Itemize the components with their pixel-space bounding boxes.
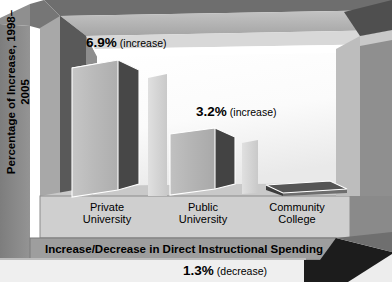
value-note-community: (decrease): [217, 265, 267, 277]
ghost-bar-public: [242, 140, 258, 194]
value-callout-public: 3.2% (increase): [196, 105, 277, 119]
frame-right-face: [360, 30, 392, 196]
bar-public-side: [215, 128, 235, 189]
value-label-community: 1.3%: [183, 263, 214, 278]
bottom-strip-divider: [0, 258, 306, 260]
ghost-bar-private: [148, 74, 167, 196]
value-callout-private: 6.9% (increase): [86, 36, 167, 50]
value-label-private: 6.9%: [86, 35, 117, 50]
bar-public-front: [170, 128, 215, 195]
category-label-private-line2: University: [62, 214, 152, 226]
category-label-community-line1: Community: [269, 201, 325, 213]
category-label-public: Public University: [158, 202, 248, 225]
x-axis-title: Increase/Decrease in Direct Instructiona…: [36, 243, 332, 255]
category-label-public-line1: Public: [188, 201, 218, 213]
y-axis-title: Percentage of Increase, 1998–2005: [5, 5, 32, 180]
category-label-community: Community College: [247, 202, 347, 225]
chart-figure: Percentage of Increase, 1998–2005 6.9% (…: [0, 0, 392, 282]
bar-private-side: [118, 60, 139, 190]
bar-private-front: [72, 60, 118, 197]
value-label-public: 3.2%: [196, 104, 227, 119]
frame-right-inner: [336, 36, 360, 196]
value-callout-community: 1.3% (decrease): [183, 264, 267, 278]
chart-graphics: [0, 0, 392, 282]
category-label-community-line2: College: [247, 214, 347, 226]
category-label-public-line2: University: [158, 214, 248, 226]
category-label-private: Private University: [62, 202, 152, 225]
value-note-public: (increase): [230, 106, 277, 118]
chart-scene: Percentage of Increase, 1998–2005 6.9% (…: [0, 0, 392, 282]
y-axis-title-wrapper: Percentage of Increase, 1998–2005: [5, 5, 45, 180]
category-label-private-line1: Private: [90, 201, 124, 213]
value-note-private: (increase): [120, 37, 167, 49]
